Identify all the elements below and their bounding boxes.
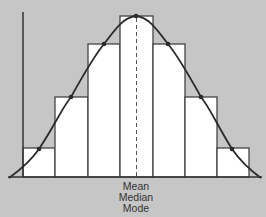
point — [69, 95, 74, 100]
center-label: Mean Median Mode — [96, 181, 176, 214]
point — [134, 14, 139, 19]
bar-6 — [185, 97, 217, 177]
bar-5 — [153, 44, 185, 177]
point — [37, 147, 42, 152]
point — [230, 147, 235, 152]
bar-3 — [88, 44, 120, 177]
point — [199, 95, 204, 100]
label-mode: Mode — [96, 203, 176, 214]
bar-2 — [55, 97, 88, 177]
point — [102, 42, 107, 47]
point — [166, 42, 171, 47]
